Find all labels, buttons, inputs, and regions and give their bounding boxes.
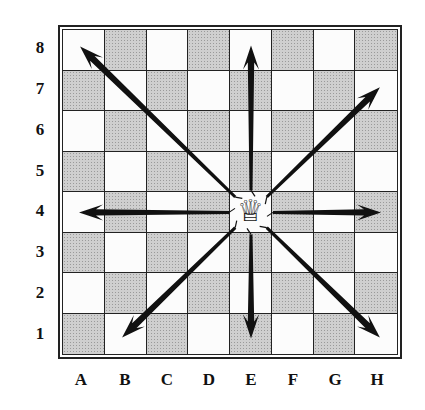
square-h6 (355, 111, 397, 152)
square-c4 (147, 192, 189, 233)
square-c3 (147, 233, 189, 274)
rank-label-7: 7 (30, 79, 50, 99)
file-label-c: C (152, 370, 182, 390)
file-label-h: H (362, 370, 392, 390)
square-c1 (147, 314, 189, 355)
square-a1 (63, 314, 105, 355)
square-d5 (188, 152, 230, 193)
square-d7 (188, 71, 230, 112)
square-d2 (188, 273, 230, 314)
square-d4 (188, 192, 230, 233)
rank-label-6: 6 (30, 120, 50, 140)
square-a2 (63, 273, 105, 314)
square-b3 (105, 233, 147, 274)
file-label-d: D (194, 370, 224, 390)
square-c8 (147, 30, 189, 71)
rank-label-8: 8 (30, 38, 50, 58)
square-f6 (272, 111, 314, 152)
square-a7 (63, 71, 105, 112)
square-c7 (147, 71, 189, 112)
square-f3 (272, 233, 314, 274)
rank-label-4: 4 (30, 201, 50, 221)
square-f1 (272, 314, 314, 355)
square-f7 (272, 71, 314, 112)
rank-label-1: 1 (30, 324, 50, 344)
square-f4 (272, 192, 314, 233)
queen-piece: ♕ (232, 193, 268, 229)
square-a6 (63, 111, 105, 152)
square-d8 (188, 30, 230, 71)
square-h1 (355, 314, 397, 355)
square-b8 (105, 30, 147, 71)
square-g2 (314, 273, 356, 314)
square-g8 (314, 30, 356, 71)
square-g1 (314, 314, 356, 355)
square-a4 (63, 192, 105, 233)
square-f5 (272, 152, 314, 193)
square-a3 (63, 233, 105, 274)
square-h4 (355, 192, 397, 233)
file-label-f: F (278, 370, 308, 390)
square-e3 (230, 233, 272, 274)
square-g4 (314, 192, 356, 233)
square-g3 (314, 233, 356, 274)
square-b5 (105, 152, 147, 193)
square-c5 (147, 152, 189, 193)
square-d1 (188, 314, 230, 355)
square-h5 (355, 152, 397, 193)
square-e1 (230, 314, 272, 355)
square-g7 (314, 71, 356, 112)
file-label-g: G (320, 370, 350, 390)
square-b4 (105, 192, 147, 233)
square-f2 (272, 273, 314, 314)
rank-label-3: 3 (30, 242, 50, 262)
chessboard (62, 29, 398, 355)
square-e2 (230, 273, 272, 314)
rank-label-5: 5 (30, 161, 50, 181)
square-e7 (230, 71, 272, 112)
square-g6 (314, 111, 356, 152)
square-c2 (147, 273, 189, 314)
square-h7 (355, 71, 397, 112)
square-h3 (355, 233, 397, 274)
square-b7 (105, 71, 147, 112)
square-a5 (63, 152, 105, 193)
square-h8 (355, 30, 397, 71)
square-d3 (188, 233, 230, 274)
square-b6 (105, 111, 147, 152)
file-label-a: A (66, 370, 96, 390)
square-b1 (105, 314, 147, 355)
square-e5 (230, 152, 272, 193)
square-c6 (147, 111, 189, 152)
square-e8 (230, 30, 272, 71)
file-label-b: B (110, 370, 140, 390)
square-a8 (63, 30, 105, 71)
file-label-e: E (236, 370, 266, 390)
square-e6 (230, 111, 272, 152)
square-b2 (105, 273, 147, 314)
square-g5 (314, 152, 356, 193)
rank-label-2: 2 (30, 283, 50, 303)
square-d6 (188, 111, 230, 152)
square-h2 (355, 273, 397, 314)
square-f8 (272, 30, 314, 71)
